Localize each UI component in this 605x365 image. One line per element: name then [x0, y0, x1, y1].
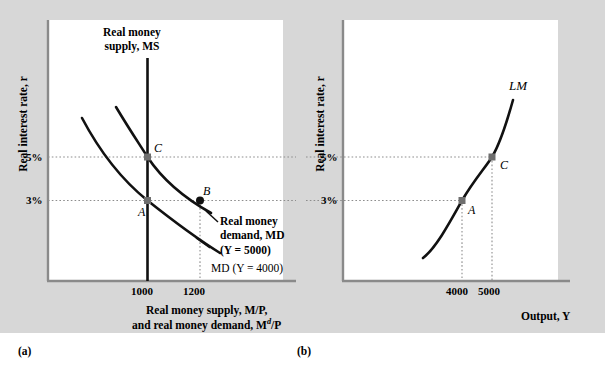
panel-a-x-axis-label-line1: Real money supply, M/P, — [146, 304, 267, 316]
panel-a-xtick-1200: 1200 — [183, 285, 205, 297]
panel-a-x-axis-label-line2: and real money demand, Md/P — [132, 319, 281, 331]
panel-a-md-4000-label: MD (Y = 4000) — [211, 262, 283, 274]
panel-a-ms-label: Real money supply, MS — [103, 26, 161, 54]
panel-b-ytick-3pct: 3% — [321, 194, 338, 206]
panel-a-y-axis-label: Real interest rate, r — [17, 39, 29, 209]
panel-b-point-A — [459, 197, 466, 204]
panel-a-xtick-1000: 1000 — [131, 285, 153, 297]
panel-b-point-C-label: C — [500, 158, 508, 173]
figure-root: Real interest rate, r 5% 3% 1000 1200 Re… — [0, 0, 605, 365]
panel-b-xtick-4000: 4000 — [446, 285, 468, 297]
panel-a-md-5000-label-line2: demand, MD — [220, 229, 285, 241]
panel-a-ytick-5pct: 5% — [26, 151, 43, 163]
panel-a-ms-label-line1: Real money — [103, 26, 161, 38]
panel-a-point-B-label: B — [203, 184, 210, 199]
panel-a-x-axis-label-line2-tail: /P — [271, 319, 281, 331]
panel-a-md-5000-label-line1: Real money — [220, 215, 278, 227]
panel-a-point-C-label: C — [154, 141, 162, 156]
panel-a-md-4000-leader — [196, 238, 210, 248]
panel-a-x-axis-label: Real money supply, M/P, and real money d… — [132, 303, 281, 333]
panel-a-md-5000-label: Real money demand, MD (Y = 5000) — [220, 214, 285, 257]
panel-a-point-A-label: A — [138, 205, 145, 220]
panel-b-xtick-5000: 5000 — [478, 285, 500, 297]
panel-a-md-4000-curve — [82, 118, 220, 253]
panel-a-md-5000-curve — [116, 107, 211, 213]
panel-b-lm-label: LM — [509, 78, 527, 94]
figure-vector-layer — [0, 0, 605, 365]
panel-a-point-C — [144, 154, 151, 161]
panel-b-ytick-5pct: 5% — [321, 151, 338, 163]
panel-b-lm-curve — [423, 100, 513, 258]
panel-a-ms-label-line2: supply, MS — [104, 40, 159, 52]
panel-a-caption: (a) — [18, 345, 31, 357]
panel-b-x-axis-label: Output, Y — [521, 309, 570, 323]
panel-b-point-A-label: A — [468, 203, 475, 218]
panel-b-point-C — [489, 154, 496, 161]
panel-a-ytick-3pct: 3% — [26, 194, 43, 206]
panel-b-y-axis-label: Real interest rate, r — [314, 39, 326, 209]
panel-a-md-5000-label-line3: (Y = 5000) — [220, 244, 271, 256]
panel-b-caption: (b) — [297, 345, 311, 357]
panel-a-x-axis-label-line2-main: and real money demand, M — [132, 319, 267, 331]
panel-a-point-A — [144, 197, 151, 204]
